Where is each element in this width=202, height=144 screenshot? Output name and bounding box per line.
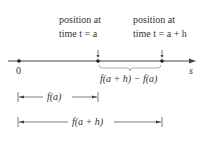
- origin-point: [17, 59, 21, 63]
- pointer-ah-icon: [161, 55, 164, 58]
- axis-arrow-icon: [189, 59, 196, 64]
- label-position-a-line2: time t = a: [59, 28, 97, 39]
- label-position-ah-line2: time t = a + h: [133, 28, 187, 39]
- label-difference: f(a + h) − f(a): [100, 73, 157, 84]
- label-position-ah-line1: position at: [133, 14, 175, 25]
- difference-brace: [99, 65, 161, 71]
- label-position-a-line1: position at: [59, 14, 101, 25]
- point-a-plus-h: [160, 59, 164, 63]
- pointer-a-icon: [97, 55, 100, 58]
- label-axis-s: s: [189, 65, 193, 76]
- point-a: [96, 59, 100, 63]
- position-diagram: position at time t = a position at time …: [0, 0, 202, 144]
- label-origin: 0: [16, 65, 21, 76]
- label-f-a-plus-h: f(a + h): [72, 116, 103, 127]
- label-f-a: f(a): [47, 91, 61, 102]
